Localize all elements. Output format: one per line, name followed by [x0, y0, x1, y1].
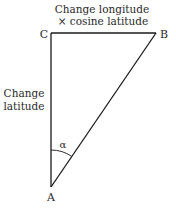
vertex-a-label: A	[46, 191, 56, 204]
left-edge-label-line2: latitude	[3, 100, 44, 112]
triangle-diagram: α C B A Change longitude × cosine latitu…	[0, 0, 176, 211]
angle-arc	[51, 150, 72, 156]
edge-a-b-hypotenuse	[51, 33, 156, 187]
vertex-c-label: C	[40, 28, 48, 41]
top-edge-label-line1: Change longitude	[55, 3, 150, 15]
angle-alpha-label: α	[60, 139, 67, 150]
left-edge-label-line1: Change	[4, 87, 45, 99]
vertex-b-label: B	[160, 28, 168, 41]
top-edge-label-line2: × cosine latitude	[58, 15, 149, 27]
